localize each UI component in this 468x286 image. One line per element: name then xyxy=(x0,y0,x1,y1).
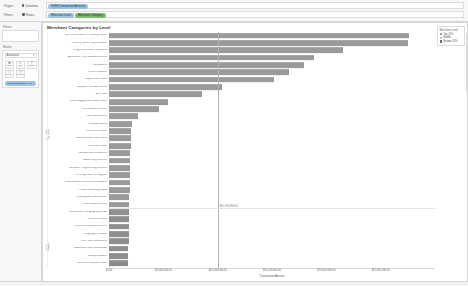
bar-row[interactable]: Taxicabs and Limousines xyxy=(47,150,435,157)
bar[interactable] xyxy=(109,187,130,193)
legend-item-1[interactable]: Middle xyxy=(440,36,463,39)
marks-label-button[interactable]: T Label xyxy=(27,61,37,69)
bottom-axis-note: $1,876,477.00 xyxy=(111,263,128,266)
bar-row[interactable]: Drug Stores and Pharmacies xyxy=(47,47,435,54)
chevron-down-icon[interactable]: ▾ xyxy=(33,54,35,57)
bar[interactable] xyxy=(109,92,202,98)
bar-row[interactable]: Pet Shops and Pet Supplies xyxy=(47,172,435,179)
bar[interactable] xyxy=(109,77,274,83)
filters-card-box[interactable] xyxy=(2,30,39,42)
bar-row[interactable]: Home Supply Warehouse Stores xyxy=(47,98,435,105)
bar-row[interactable]: Air Travel xyxy=(47,91,435,98)
bar-row[interactable]: Commercial Photography and Art xyxy=(47,208,435,215)
bar-row[interactable]: Cosmetic Stores xyxy=(47,216,435,223)
bar[interactable] xyxy=(109,194,129,200)
bar[interactable] xyxy=(109,231,129,237)
bar[interactable] xyxy=(109,33,409,39)
bar-row[interactable]: Discount Stores xyxy=(47,120,435,127)
bar-row[interactable]: Health and Beauty Spas xyxy=(47,186,435,193)
bar[interactable] xyxy=(109,121,132,127)
x-axis-tick: $20,000,000.00 xyxy=(317,269,335,272)
marks-type-selector[interactable]: Automatic ▾ xyxy=(5,53,37,59)
x-axis-title: Transaction Amount xyxy=(109,274,435,278)
columns-shelf-track[interactable]: SUM(Transaction Amount) xyxy=(46,2,464,9)
rows-pill-1[interactable]: Merchant Category xyxy=(75,13,106,19)
bar-row[interactable]: Telecommunication Services xyxy=(47,223,435,230)
bar-row[interactable]: Grocery Stores, Supermarkets xyxy=(47,39,435,46)
rows-shelf-label[interactable]: Rows xyxy=(22,13,38,17)
bar-track xyxy=(109,252,435,259)
bar[interactable] xyxy=(109,224,129,230)
bar-track xyxy=(109,98,435,105)
bar-row[interactable]: Fast Food Restaurants xyxy=(47,238,435,245)
rows-shelf-track[interactable]: Merchant Level Merchant Category xyxy=(46,11,464,18)
bar-row[interactable]: Automobile Parts and Accessories xyxy=(47,54,435,61)
marks-tooltip-button[interactable]: ☰ Tooltip xyxy=(16,70,26,78)
bar[interactable] xyxy=(109,62,304,68)
marks-color-label: Color xyxy=(6,65,12,67)
bar-row[interactable]: Hotels and Motels xyxy=(47,113,435,120)
bar-row[interactable]: Restaurants xyxy=(47,61,435,68)
bar[interactable] xyxy=(109,55,314,61)
bar-row[interactable]: Professional Services xyxy=(47,201,435,208)
bar-row[interactable]: Used Merchandise Stores xyxy=(47,260,435,267)
bar-row[interactable]: Service Stations xyxy=(47,69,435,76)
bar[interactable] xyxy=(109,114,138,120)
bar[interactable] xyxy=(109,158,130,164)
bar[interactable] xyxy=(109,128,131,134)
legend-title: Merchant Level xyxy=(440,29,463,32)
pages-shelf-label: Pages xyxy=(0,4,22,8)
bar[interactable] xyxy=(109,253,128,259)
marks-label-label: Label xyxy=(29,65,35,67)
legend-swatch-icon xyxy=(440,40,443,43)
bar[interactable] xyxy=(109,216,129,222)
bar[interactable] xyxy=(109,70,289,76)
columns-radio-icon[interactable] xyxy=(22,4,24,7)
bar[interactable] xyxy=(109,150,130,156)
bar-row[interactable]: Miscellaneous General Merchandise xyxy=(47,179,435,186)
columns-pill-0[interactable]: SUM(Transaction Amount) xyxy=(48,4,88,10)
bar[interactable] xyxy=(109,246,128,252)
marks-encoded-pill[interactable]: SUM(Transaction Am.. xyxy=(5,81,36,86)
legend-swatch-icon xyxy=(440,37,443,40)
bar-row-label: Used Merchandise Stores xyxy=(47,262,109,265)
bar[interactable] xyxy=(109,165,130,171)
columns-shelf-label[interactable]: Columns xyxy=(22,4,38,8)
bar-row[interactable]: Computer Software Stores xyxy=(47,83,435,90)
marks-detail-button[interactable]: ☷ Detail xyxy=(5,70,15,78)
bar-row[interactable]: Computer Programming Services xyxy=(47,164,435,171)
bar-row[interactable]: Cleaning and Maintenance xyxy=(47,194,435,201)
bar-row[interactable]: Advertising Services xyxy=(47,157,435,164)
bar-row[interactable]: Electronics Stores xyxy=(47,127,435,134)
bar-row-label: Fast Food Restaurants xyxy=(47,240,109,243)
bar-track xyxy=(109,172,435,179)
bar-row[interactable]: Wholesale Clubs xyxy=(47,142,435,149)
bar-row-label: Photographic Studios xyxy=(47,233,109,236)
bar[interactable] xyxy=(109,209,129,215)
bar[interactable] xyxy=(109,238,129,244)
bar-row[interactable]: Recreational Vehicles xyxy=(47,105,435,112)
bar-row[interactable]: Photographic Studios xyxy=(47,230,435,237)
marks-size-button[interactable]: ↖ Size xyxy=(16,61,26,69)
bar[interactable] xyxy=(109,136,131,142)
bar[interactable] xyxy=(109,143,131,149)
rows-pill-0[interactable]: Merchant Level xyxy=(48,13,74,19)
bar[interactable] xyxy=(109,84,222,90)
bar[interactable] xyxy=(109,172,130,178)
bar-row[interactable]: Miscellaneous Food Stores xyxy=(47,135,435,142)
bar[interactable] xyxy=(109,99,168,105)
bar[interactable] xyxy=(109,180,130,186)
rows-radio-icon[interactable] xyxy=(22,13,25,16)
marks-card: Marks Automatic ▾ ■ Color ↖ Size xyxy=(2,44,39,88)
bar[interactable] xyxy=(109,106,159,112)
bar-row[interactable]: Antique Dealers xyxy=(47,252,435,259)
marks-color-button[interactable]: ■ Color xyxy=(5,61,15,69)
bar-track xyxy=(109,201,435,208)
bar-row[interactable]: Men's and Women's Clothing Stores xyxy=(47,32,435,39)
bar[interactable] xyxy=(109,47,343,53)
bar-row[interactable]: Department Stores xyxy=(47,76,435,83)
bar-row[interactable]: Bookstores and Newsstands xyxy=(47,245,435,252)
bar[interactable] xyxy=(109,202,129,208)
legend-item-2[interactable]: Bottom 20% xyxy=(440,40,463,43)
bar[interactable] xyxy=(109,40,408,46)
